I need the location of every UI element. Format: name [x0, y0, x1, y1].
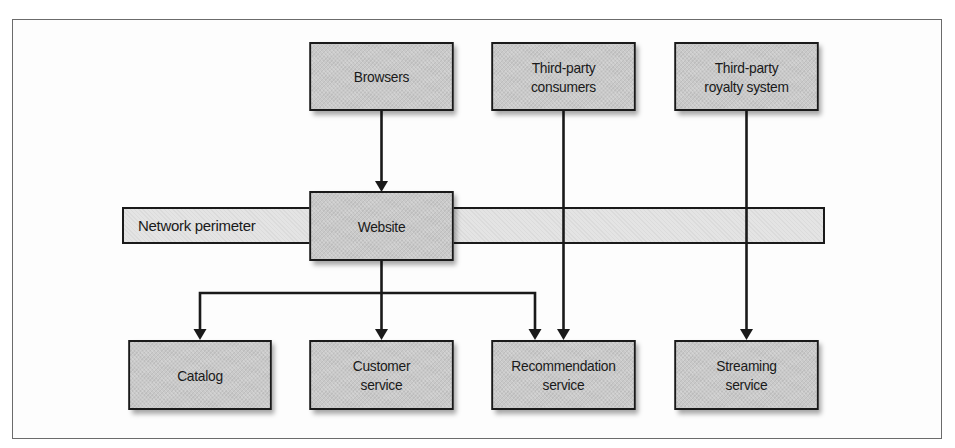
node-browsers-label: Browsers — [354, 67, 409, 86]
node-customer-service-label: Customer service — [353, 356, 411, 394]
node-third-party-royalty-system-label: Third-party royalty system — [704, 58, 788, 96]
node-catalog: Catalog — [128, 340, 272, 410]
node-recommendation-service: Recommendation service — [491, 340, 635, 410]
network-perimeter-label: Network perimeter — [138, 209, 255, 242]
node-catalog-label: Catalog — [177, 366, 223, 385]
network-perimeter-band: Network perimeter — [122, 207, 825, 244]
node-streaming-service-label: Streaming service — [716, 356, 776, 394]
node-streaming-service: Streaming service — [674, 340, 818, 410]
node-third-party-consumers-label: Third-party consumers — [531, 58, 596, 96]
node-customer-service: Customer service — [309, 340, 453, 410]
node-browsers: Browsers — [309, 42, 453, 111]
node-website: Website — [309, 191, 453, 261]
node-website-label: Website — [358, 217, 406, 236]
node-recommendation-service-label: Recommendation service — [511, 356, 615, 394]
node-third-party-royalty-system: Third-party royalty system — [674, 42, 818, 111]
node-third-party-consumers: Third-party consumers — [491, 42, 635, 111]
